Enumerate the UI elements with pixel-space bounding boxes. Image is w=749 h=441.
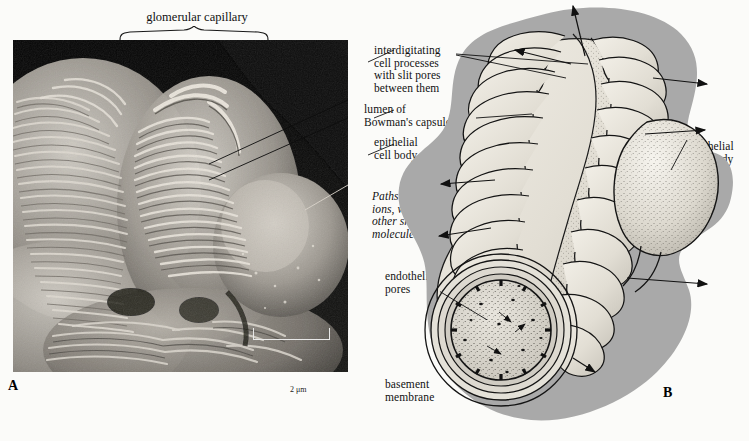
micrograph-image: [13, 40, 348, 372]
scale-bar: [253, 328, 330, 340]
glomerular-capillary-title: glomerular capillary: [122, 10, 272, 25]
leader-lines-panel-b: [440, 40, 640, 320]
sem-micrograph-panel-a: [13, 40, 348, 372]
figure-root: glomerular capillary: [0, 0, 749, 441]
scale-bar-label: 2 μm: [290, 385, 307, 394]
panel-a-label: A: [8, 378, 18, 394]
